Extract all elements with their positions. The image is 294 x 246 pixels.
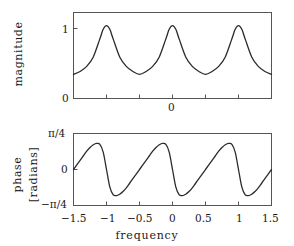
phase-xticks bbox=[74, 202, 272, 206]
figure-container: magnitude 1 0 0 phase [radians] π/4 bbox=[0, 0, 294, 246]
phase-curve bbox=[74, 143, 272, 196]
phase-plot bbox=[0, 0, 294, 246]
